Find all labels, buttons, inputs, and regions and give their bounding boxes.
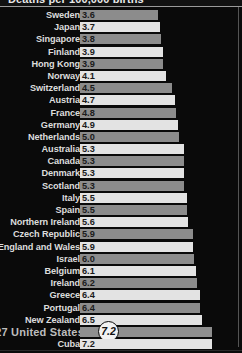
bar-value: 5.5 (82, 192, 95, 204)
bar-value: 5.3 (82, 143, 95, 155)
bar (80, 339, 212, 349)
bar (80, 242, 193, 252)
bar-value: 5.3 (82, 180, 95, 192)
chart-root: Deaths per 100,000 births Sweden3.6Japan… (0, 0, 242, 353)
bar-value: 6.2 (82, 277, 95, 289)
bar-row: Ireland6.2 (0, 277, 242, 289)
bar-value: 3.9 (82, 58, 95, 70)
bar-label: New Zealand (0, 314, 80, 326)
bar-value: 4.5 (82, 82, 95, 94)
bar-label: Netherlands (0, 131, 80, 143)
bar (80, 132, 179, 142)
bar-value: 3.6 (82, 9, 95, 21)
bar (80, 266, 196, 276)
bar-row: Greece6.4 (0, 289, 242, 301)
bar (80, 229, 193, 239)
bar-label: Hong Kong (0, 58, 80, 70)
bar-rows: Sweden3.6Japan3.7Singapore3.8Finland3.9H… (0, 9, 242, 350)
bar-value: 5.9 (82, 241, 95, 253)
bar-row: Portugal6.4 (0, 302, 242, 314)
bar-row: Netherlands5.0 (0, 131, 242, 143)
bar-row: Japan3.7 (0, 21, 242, 33)
bar-label: France (0, 107, 80, 119)
bar (80, 181, 184, 191)
bar-row: England and Wales5.9 (0, 241, 242, 253)
bar (80, 290, 200, 300)
bar-row: Czech Republic5.9 (0, 228, 242, 240)
bar-row: Spain5.5 (0, 204, 242, 216)
bar-value: 3.9 (82, 46, 95, 58)
bar (80, 205, 187, 215)
bar-value: 6.0 (82, 253, 95, 265)
bar-row: Sweden3.6 (0, 9, 242, 21)
bar-value: 6.1 (82, 265, 95, 277)
title-divider (0, 6, 242, 7)
bar-row: Cuba7.2 (0, 338, 242, 350)
bar-label: Switzerland (0, 82, 80, 94)
bar-value: 5.3 (82, 155, 95, 167)
bar-label: Denmark (0, 167, 80, 179)
bar (80, 217, 188, 227)
bar-value: 4.9 (82, 119, 95, 131)
bar-value: 5.0 (82, 131, 95, 143)
bar-label: Canada (0, 155, 80, 167)
bar-value: 6.4 (82, 302, 95, 314)
bar-value: 5.9 (82, 228, 95, 240)
bar-label: 27 United States (0, 326, 84, 338)
bar-value: 4.8 (82, 107, 95, 119)
bar (80, 168, 184, 178)
bar-value: 5.6 (82, 216, 95, 228)
bar-label: Norway (0, 70, 80, 82)
bar (80, 303, 200, 313)
bar-row: Denmark5.3 (0, 167, 242, 179)
bar-label: Spain (0, 204, 80, 216)
bar (80, 278, 197, 288)
bar-row: Germany4.9 (0, 119, 242, 131)
bar-value: 6.4 (82, 289, 95, 301)
bar-row: Hong Kong3.9 (0, 58, 242, 70)
bar (80, 156, 184, 166)
bar-row: Israel6.0 (0, 253, 242, 265)
bar-label: Singapore (0, 33, 80, 45)
chart-title: Deaths per 100,000 births (8, 0, 144, 5)
bar-row: Norway4.1 (0, 70, 242, 82)
bar-value: 5.3 (82, 167, 95, 179)
bar-label: Ireland (0, 277, 80, 289)
bar-label: Greece (0, 289, 80, 301)
bar-row: Switzerland4.5 (0, 82, 242, 94)
bar-row-highlighted: 27 United States7.27.2 (0, 326, 242, 338)
bar-value: 7.2 (82, 338, 95, 350)
bar-value: 6.5 (82, 314, 95, 326)
bar-label: Portugal (0, 302, 80, 314)
bar-value: 3.7 (82, 21, 95, 33)
bar (80, 144, 184, 154)
figure-right-border (238, 7, 239, 347)
bar-label: Scotland (0, 180, 80, 192)
bar (80, 315, 202, 325)
bar-label: Austria (0, 94, 80, 106)
bar-row: Austria4.7 (0, 94, 242, 106)
figure-bottom-border (0, 350, 242, 351)
bar-row: Northern Ireland5.6 (0, 216, 242, 228)
bar-label: Northern Ireland (0, 216, 80, 228)
bar-row: France4.8 (0, 107, 242, 119)
bar-row: Belgium6.1 (0, 265, 242, 277)
bar-label: Belgium (0, 265, 80, 277)
bar (80, 254, 194, 264)
bar-value: 4.7 (82, 94, 95, 106)
bar-value: 3.8 (82, 33, 95, 45)
bar-row: Finland3.9 (0, 46, 242, 58)
bar-row: Italy5.5 (0, 192, 242, 204)
bar-value: 5.5 (82, 204, 95, 216)
bar-label: Israel (0, 253, 80, 265)
bar-label: Cuba (0, 338, 80, 350)
bar-row: New Zealand6.5 (0, 314, 242, 326)
bar-label: Japan (0, 21, 80, 33)
bar-label: Germany (0, 119, 80, 131)
bar-label: Sweden (0, 9, 80, 21)
bar (80, 193, 187, 203)
bar-row: Scotland5.3 (0, 180, 242, 192)
bar-label: Australia (0, 143, 80, 155)
bar-row: Singapore3.8 (0, 33, 242, 45)
bar-value: 4.1 (82, 70, 95, 82)
